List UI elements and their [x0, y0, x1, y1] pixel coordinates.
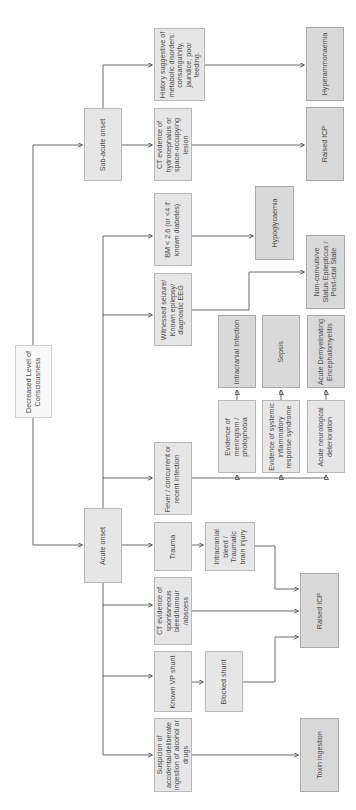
result-raised-icp-top: Raised ICP	[306, 107, 344, 181]
node-label: Witnessed seizure/ Known epilepsy/ diagn…	[160, 275, 186, 345]
node-label: Non-convulsive Status Epilepticus / Post…	[313, 237, 339, 307]
result-ncse: Non-convulsive Status Epilepticus / Post…	[306, 235, 345, 309]
result-sepsis: Sepsis	[262, 315, 300, 388]
result-intracranial-infection: Intracranial Infection	[218, 315, 256, 388]
result-adem: Acute Demyelinating Encephalomyelitis	[307, 315, 345, 388]
node-label: CT evidence of hydrocephalus or space-oc…	[156, 110, 190, 180]
node-label: Acute Demyelinating Encephalomyelitis	[317, 317, 334, 387]
node-label: Hypoglycaemia	[270, 188, 279, 258]
node-label: Toxin ingestion	[315, 719, 324, 791]
node-acute-neuro-deterioration: Acute neurological deterioration	[307, 400, 345, 473]
node-bm-low: BM < 2.6 (or <4 if known diabetes)	[154, 193, 192, 266]
node-label: Intracranial Infection	[233, 317, 242, 387]
node-label: History suggestive of metabolic disorder…	[158, 30, 201, 100]
node-label: Blocked shunt	[220, 653, 229, 711]
node-label: Fever / concurrent or recent infection	[164, 444, 181, 514]
result-hyperammonaemia: Hyperammonaemia	[306, 27, 344, 101]
node-label: Trauma	[169, 524, 178, 570]
node-label: Known VP shunt	[169, 653, 178, 711]
node-subacute-onset: Sub-acute onset	[84, 108, 122, 181]
node-evidence-sirs: Evidence of systemic inflammatory respon…	[262, 400, 300, 473]
node-label: CT evidence of spontaneous bleed/tumour …	[156, 578, 190, 644]
node-label: Acute onset	[99, 510, 108, 582]
node-label: Sepsis	[277, 317, 286, 387]
result-toxin-ingestion: Toxin ingestion	[300, 718, 339, 792]
node-label: Hyperammonaemia	[321, 29, 330, 99]
node-history-metabolic: History suggestive of metabolic disorder…	[154, 28, 205, 101]
result-raised-icp-mid: Raised ICP	[300, 573, 339, 648]
node-intracranial-bleed: Intracranial bleed / Traumatic brain inj…	[205, 522, 255, 571]
node-label: Suspicion of accidental/deliberate inges…	[156, 719, 190, 791]
node-witnessed-seizure: Witnessed seizure/ Known epilepsy/ diagn…	[154, 273, 192, 346]
node-fever-infection: Fever / concurrent or recent infection	[154, 442, 192, 515]
node-blocked-shunt: Blocked shunt	[205, 651, 243, 712]
node-known-vp-shunt: Known VP shunt	[154, 651, 192, 712]
node-label: Intracranial bleed / Traumatic brain inj…	[213, 524, 247, 570]
result-hypoglycaemia: Hypoglycaemia	[255, 186, 294, 260]
node-trauma: Trauma	[154, 522, 192, 571]
node-label: Evidence of meningism / photophobia	[224, 402, 250, 472]
node-suspicion-ingestion: Suspicion of accidental/deliberate inges…	[154, 718, 192, 792]
node-label: Acute neurological deterioration	[317, 402, 334, 472]
node-decreased-consciousness: Decreased Level of Consciousness	[15, 345, 52, 418]
node-label: Evidence of systemic inflammatory respon…	[268, 402, 294, 472]
node-label: Raised ICP	[321, 109, 330, 179]
node-label: Decreased Level of Consciousness	[25, 347, 42, 417]
node-label: Sub-acute onset	[99, 110, 108, 180]
node-label: BM < 2.6 (or <4 if known diabetes)	[164, 195, 181, 265]
node-ct-spontaneous: CT evidence of spontaneous bleed/tumour …	[154, 577, 192, 645]
node-evidence-meningism: Evidence of meningism / photophobia	[218, 400, 256, 473]
node-acute-onset: Acute onset	[84, 508, 122, 583]
node-ct-hydrocephalus: CT evidence of hydrocephalus or space-oc…	[154, 108, 192, 181]
node-label: Raised ICP	[315, 575, 324, 647]
